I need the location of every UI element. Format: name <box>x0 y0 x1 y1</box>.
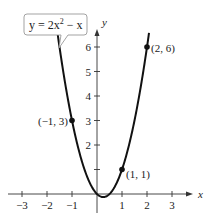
x-axis-label: x <box>197 188 203 200</box>
y-tick-label: 6 <box>86 41 92 53</box>
data-point <box>119 167 125 173</box>
y-tick-label: 4 <box>86 90 92 102</box>
data-point <box>144 44 150 50</box>
equation-callout: y = 2x2 − x <box>24 14 87 48</box>
x-tick-label: −1 <box>66 199 78 211</box>
y-tick-label: 2 <box>86 139 92 151</box>
y-tick-label: 5 <box>86 66 92 78</box>
function-plot: −3−2−1123 23456 x y (−1, 3)(1, 1)(2, 6) … <box>0 0 208 220</box>
y-tick-label: 3 <box>86 115 92 127</box>
x-tick-label: 3 <box>169 199 175 211</box>
y-axis-label: y <box>101 16 107 28</box>
x-axis-arrow-icon <box>186 192 193 197</box>
y-ticks: 23456 <box>86 41 101 170</box>
x-tick-label: −3 <box>16 199 28 211</box>
point-label: (1, 1) <box>126 168 150 181</box>
point-label: (−1, 3) <box>38 115 68 128</box>
x-tick-label: 1 <box>119 199 125 211</box>
y-axis-arrow-icon <box>95 29 100 36</box>
data-point <box>69 118 75 124</box>
labeled-points: (−1, 3)(1, 1)(2, 6) <box>38 42 175 181</box>
x-tick-label: −2 <box>41 199 53 211</box>
x-tick-label: 2 <box>144 199 150 211</box>
equation-label: y = 2x2 − x <box>29 17 83 32</box>
point-label: (2, 6) <box>151 42 175 55</box>
